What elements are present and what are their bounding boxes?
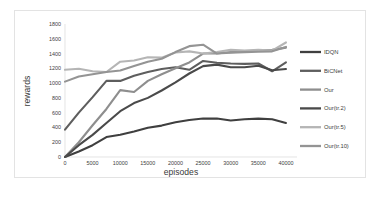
x-tick-label: 5000 bbox=[87, 160, 99, 166]
y-tick-label: 200 bbox=[52, 139, 61, 145]
legend-label: Our(tr.5) bbox=[324, 124, 346, 130]
x-tick-label: 30000 bbox=[223, 160, 238, 166]
legend-label: BiCNet bbox=[324, 68, 343, 74]
legend-label: Our(tr.10) bbox=[324, 143, 349, 149]
legend-label: Our bbox=[324, 87, 334, 93]
series-line-idqn bbox=[65, 119, 286, 157]
y-tick-label: 800 bbox=[52, 95, 61, 101]
legend-label: IDQN bbox=[324, 49, 339, 55]
y-tick-label: 0 bbox=[58, 154, 61, 160]
y-tick-label: 1600 bbox=[49, 36, 61, 42]
data-series-group bbox=[65, 42, 286, 157]
line-chart: 020040060080010001200140016001800 050001… bbox=[15, 11, 367, 179]
legend: IDQNBiCNetOurOur(tr.2)Our(tr.5)Our(tr.10… bbox=[300, 49, 349, 149]
y-axis-tick-labels: 020040060080010001200140016001800 bbox=[49, 21, 61, 160]
x-tick-label: 25000 bbox=[196, 160, 211, 166]
y-tick-label: 1400 bbox=[49, 51, 61, 57]
x-tick-label: 10000 bbox=[113, 160, 128, 166]
y-tick-label: 600 bbox=[52, 110, 61, 116]
y-tick-label: 400 bbox=[52, 124, 61, 130]
x-axis-tick-labels: 0500010000150002000025000300003500040000 bbox=[64, 160, 294, 166]
y-tick-label: 1000 bbox=[49, 80, 61, 86]
x-tick-label: 40000 bbox=[278, 160, 293, 166]
chart-container: 020040060080010001200140016001800 050001… bbox=[14, 10, 366, 178]
y-axis-title: rewards bbox=[22, 76, 32, 107]
series-line-our-tr-2 bbox=[65, 65, 286, 157]
legend-label: Our(tr.2) bbox=[324, 105, 346, 111]
y-tick-label: 1800 bbox=[49, 21, 61, 27]
x-tick-label: 20000 bbox=[168, 160, 183, 166]
x-tick-label: 15000 bbox=[140, 160, 155, 166]
x-tick-label: 35000 bbox=[251, 160, 266, 166]
x-tick-label: 0 bbox=[64, 160, 67, 166]
y-tick-label: 1200 bbox=[49, 65, 61, 71]
x-axis-title: episodes bbox=[164, 167, 198, 177]
